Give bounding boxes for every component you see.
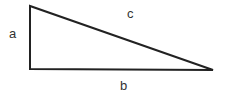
- right-triangle: [30, 6, 213, 70]
- side-c-label: c: [127, 6, 134, 21]
- side-b-label: b: [120, 78, 127, 93]
- triangle-diagram: a c b: [0, 0, 225, 94]
- side-a-label: a: [9, 26, 17, 41]
